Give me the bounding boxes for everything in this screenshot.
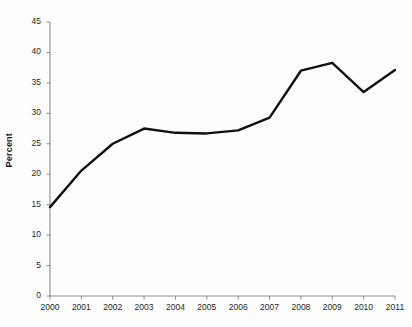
x-tick-label: 2005 — [192, 302, 222, 312]
y-tick-label: 35 — [21, 78, 41, 87]
y-tick-label: 20 — [21, 169, 41, 178]
x-tick-label: 2008 — [286, 302, 316, 312]
chart-plot-area — [0, 0, 412, 327]
y-tick-label: 40 — [21, 47, 41, 56]
y-tick-label: 15 — [21, 200, 41, 209]
x-tick-label: 2001 — [66, 302, 96, 312]
x-tick-label: 2007 — [255, 302, 285, 312]
x-tick-label: 2004 — [160, 302, 190, 312]
x-tick-label: 2009 — [317, 302, 347, 312]
line-chart: Percent 05101520253035404520002001200220… — [0, 0, 412, 327]
x-tick-label: 2002 — [98, 302, 128, 312]
data-series — [50, 63, 395, 207]
x-tick-label: 2003 — [129, 302, 159, 312]
x-tick-label: 2000 — [35, 302, 65, 312]
axis-ticks — [47, 22, 396, 300]
axes — [50, 22, 395, 296]
y-tick-label: 0 — [21, 291, 41, 300]
y-tick-label: 25 — [21, 139, 41, 148]
x-tick-label: 2010 — [349, 302, 379, 312]
x-tick-label: 2011 — [380, 302, 410, 312]
y-tick-label: 30 — [21, 108, 41, 117]
series-line — [50, 63, 395, 207]
x-tick-label: 2006 — [223, 302, 253, 312]
y-tick-label: 10 — [21, 230, 41, 239]
y-tick-label: 45 — [21, 17, 41, 26]
y-tick-label: 5 — [21, 261, 41, 270]
